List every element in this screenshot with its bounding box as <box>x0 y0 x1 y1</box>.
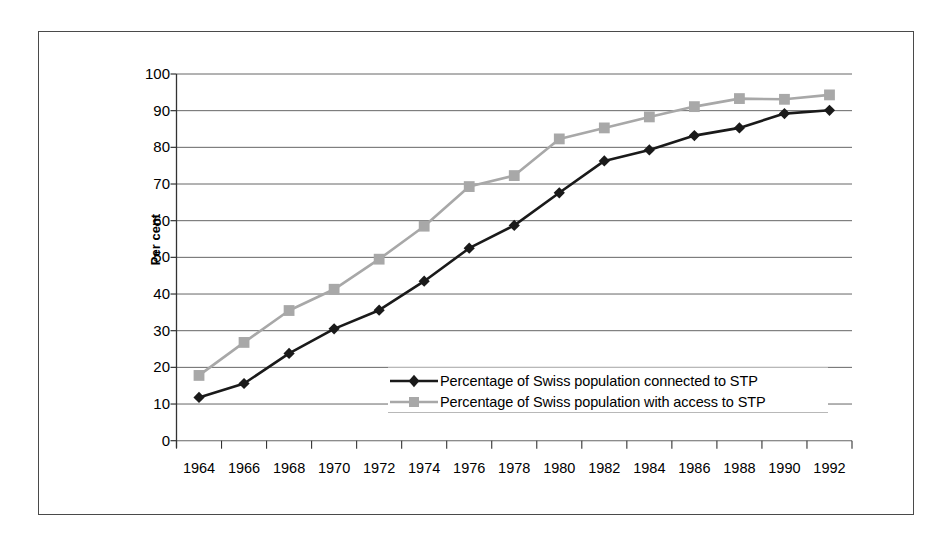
data-point-marker <box>779 108 790 119</box>
line-chart: Per cent 0102030405060708090100 19641966… <box>0 0 949 549</box>
legend-item-connected: Percentage of Swiss population connected… <box>388 370 828 391</box>
data-point-marker <box>734 93 745 104</box>
data-point-marker <box>644 112 655 123</box>
data-point-marker <box>779 94 790 105</box>
data-point-marker <box>509 170 520 181</box>
data-point-marker <box>734 122 745 133</box>
data-point-marker <box>554 134 565 145</box>
data-point-marker <box>824 105 835 116</box>
data-point-marker <box>239 337 250 348</box>
data-point-marker <box>464 181 475 192</box>
data-point-marker <box>329 284 340 295</box>
chart-page: Per cent 0102030405060708090100 19641966… <box>0 0 949 549</box>
plot-canvas <box>0 0 949 549</box>
data-point-marker <box>689 101 700 112</box>
legend-item-access: Percentage of Swiss population with acce… <box>388 391 828 412</box>
series-connected <box>193 105 835 403</box>
data-point-marker <box>374 254 385 265</box>
data-point-marker <box>689 130 700 141</box>
data-point-marker <box>599 123 610 134</box>
data-point-marker <box>419 221 430 232</box>
data-point-marker <box>193 392 204 403</box>
data-point-marker <box>824 90 835 101</box>
legend-label-connected: Percentage of Swiss population connected… <box>440 373 758 389</box>
chart-legend: Percentage of Swiss population connected… <box>388 367 828 413</box>
legend-label-access: Percentage of Swiss population with acce… <box>440 394 766 410</box>
legend-marker-diamond-icon <box>388 372 440 390</box>
data-point-marker <box>194 370 205 381</box>
legend-marker-square-icon <box>388 393 440 411</box>
data-point-marker <box>329 323 340 334</box>
series-access <box>194 90 835 381</box>
data-point-marker <box>284 305 295 316</box>
series-line <box>199 95 830 376</box>
data-point-marker <box>644 144 655 155</box>
